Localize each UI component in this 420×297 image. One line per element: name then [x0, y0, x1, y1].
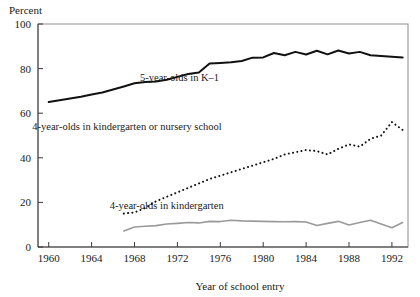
x-tick-label-1980: 1980	[252, 252, 275, 264]
series-label-4-year-olds-kindergarten-or-nursery: 4-year-olds in kindergarten or nursery s…	[32, 121, 221, 132]
series-line-3	[124, 220, 403, 231]
y-tick-label-100: 100	[15, 18, 32, 30]
data-series-group	[49, 51, 403, 231]
plot-frame-box	[38, 24, 408, 247]
x-tick-label-1992: 1992	[381, 252, 403, 264]
y-tick-label-40: 40	[20, 152, 32, 164]
series-label-5-year-olds-k1: 5-year-olds in K–1	[140, 72, 219, 83]
x-tick-label-1972: 1972	[166, 252, 188, 264]
x-tick-label-1968: 1968	[124, 252, 147, 264]
x-tick-label-1960: 1960	[38, 252, 61, 264]
x-axis-ticks: 196019641968197219761980198419881992	[38, 242, 403, 264]
chart-figure: Percent 020406080100 1960196419681972197…	[0, 0, 420, 297]
y-tick-label-20: 20	[20, 196, 32, 208]
y-tick-label-60: 60	[20, 107, 32, 119]
y-axis-ticks: 020406080100	[15, 18, 44, 253]
series-label-4-year-olds-kindergarten: 4-year-olds in kindergarten	[110, 200, 225, 211]
y-tick-label-80: 80	[20, 63, 32, 75]
x-tick-label-1988: 1988	[338, 252, 361, 264]
line-chart-canvas: Percent 020406080100 1960196419681972197…	[0, 0, 420, 297]
x-tick-label-1976: 1976	[209, 252, 232, 264]
y-tick-label-0: 0	[26, 241, 32, 253]
series-line-1	[49, 51, 403, 103]
y-axis-title: Percent	[9, 4, 42, 16]
x-tick-label-1984: 1984	[295, 252, 318, 264]
x-axis-title: Year of school entry	[195, 280, 285, 292]
plot-frame	[38, 24, 408, 247]
x-tick-label-1964: 1964	[81, 252, 104, 264]
